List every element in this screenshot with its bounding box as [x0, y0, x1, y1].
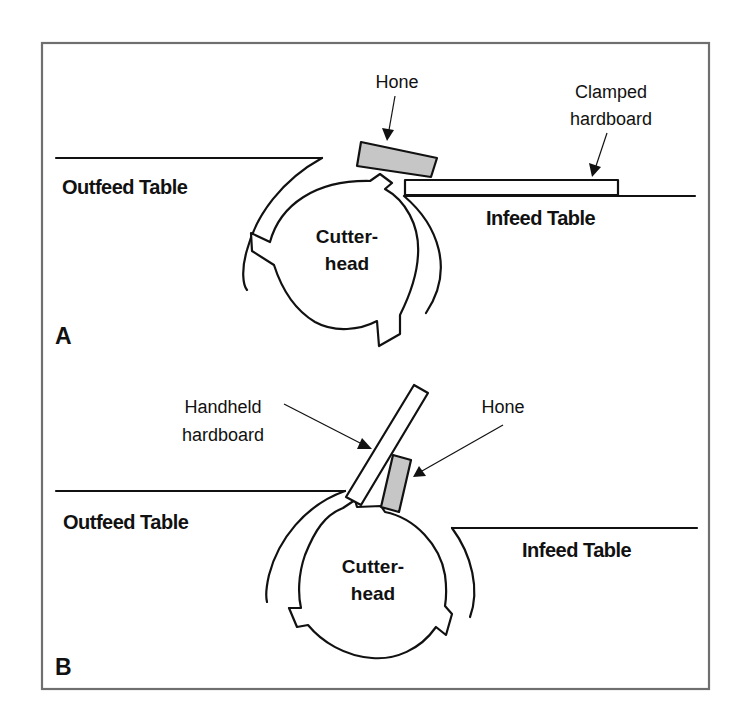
- outfeed-table-label-a: Outfeed Table: [62, 176, 188, 198]
- hone-label-b: Hone: [481, 397, 524, 417]
- infeed-table-label-a: Infeed Table: [486, 207, 596, 229]
- infeed-table-label-b: Infeed Table: [522, 539, 632, 561]
- board-label-b-line2: hardboard: [182, 425, 264, 445]
- board-label-a-line1: Clamped: [575, 82, 647, 102]
- clamped-hardboard: [405, 180, 618, 195]
- board-label-b-line1: Handheld: [184, 397, 261, 417]
- cutterhead-label-a-line1: Cutter-: [316, 226, 378, 247]
- outfeed-table-label-b: Outfeed Table: [63, 511, 189, 533]
- board-label-a-line2: hardboard: [570, 109, 652, 129]
- hone-label-a: Hone: [375, 72, 418, 92]
- panel-label-b: B: [55, 654, 72, 680]
- panel-label-a: A: [55, 323, 72, 349]
- cutterhead-label-a-line2: head: [325, 253, 369, 274]
- cutterhead-label-b-line1: Cutter-: [342, 556, 404, 577]
- jointer-honing-diagram: Hone Clamped hardboard Outfeed Table Inf…: [0, 0, 747, 719]
- cutterhead-label-b-line2: head: [351, 583, 395, 604]
